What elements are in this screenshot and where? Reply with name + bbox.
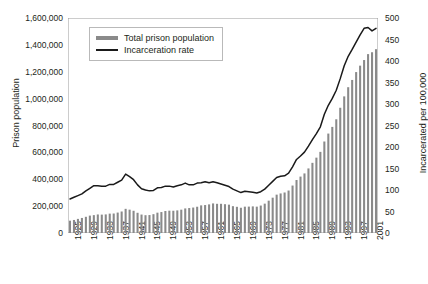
bar [101,215,103,233]
bar [129,210,131,233]
bar [252,206,254,233]
bar [280,193,282,233]
bar [200,205,202,233]
bar [299,177,301,233]
bar [224,204,226,233]
bar [196,207,198,233]
bar [160,212,162,233]
bar [148,215,150,233]
bar [184,208,186,233]
bar [140,215,142,233]
legend-swatch-line-icon [96,49,118,50]
legend-item-incarceration-rate: Incarceration rate [96,44,214,56]
bar [212,203,214,233]
bar [264,204,266,233]
bar [73,220,75,233]
bar [315,158,317,233]
bar [85,217,87,233]
bar [371,52,373,233]
bar [347,87,349,233]
bar [208,204,210,233]
bar [323,142,325,234]
bar [256,207,258,233]
bar [339,108,341,233]
bar [248,207,250,233]
bar [240,208,242,233]
bar [172,211,174,233]
bar [276,195,278,233]
bar [284,192,286,233]
bar [113,214,115,233]
bar [168,211,170,233]
bar [117,213,119,233]
bar [272,198,274,233]
bar [343,96,345,233]
bar [220,204,222,233]
bar [144,215,146,233]
bar [311,163,313,233]
bar [109,214,111,233]
bar [176,210,178,233]
bar [268,201,270,233]
bar [89,216,91,233]
bar [295,180,297,233]
bar [204,205,206,233]
bar [232,206,234,233]
bar [188,208,190,233]
chart-legend: Total prison population Incarceration ra… [89,27,223,61]
bar [180,210,182,233]
bar [69,221,71,233]
bar [307,168,309,233]
bar [152,214,154,233]
bar [133,211,135,233]
legend-item-total-prison-population: Total prison population [96,32,214,44]
prison-population-chart: Prison population Incarcerated per 100,0… [0,0,428,284]
bar-series-total-prison-population [69,49,377,233]
bar [77,219,79,233]
legend-label: Total prison population [124,32,214,44]
bar [363,60,365,233]
bar [192,208,194,233]
bar [292,186,294,233]
bar [327,134,329,233]
bar [137,213,139,233]
bar [359,66,361,233]
bar [236,207,238,233]
bar [125,209,127,233]
bar [355,72,357,233]
bar [335,119,337,233]
legend-swatch-bar-icon [96,36,118,40]
bar [97,214,99,233]
bar [375,49,377,233]
bar [156,213,158,233]
bar [164,211,166,233]
bar [81,218,83,233]
bar [260,206,262,233]
bar [105,214,107,233]
legend-label: Incarceration rate [124,44,194,56]
bar [351,80,353,233]
bar [216,204,218,233]
bar [331,127,333,233]
bar [288,191,290,233]
bar [228,205,230,233]
bar [244,207,246,233]
bar [121,212,123,234]
bar [303,173,305,233]
bar [367,54,369,233]
bar [93,215,95,233]
bar [319,152,321,233]
